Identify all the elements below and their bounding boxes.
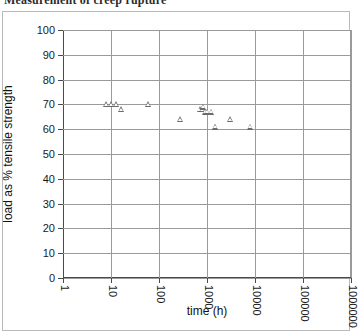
y-tick-label: 50 [43, 149, 55, 160]
data-point-marker [212, 124, 218, 130]
gridline-vertical [207, 30, 208, 278]
y-tick [58, 55, 63, 56]
y-tick [58, 129, 63, 130]
y-tick [58, 154, 63, 155]
x-tick-label: 100000 [298, 285, 309, 322]
y-axis-title: load as % tensile strength [1, 30, 15, 278]
x-tick [255, 278, 256, 283]
x-tick [159, 278, 160, 283]
chart-title: Measurement of creep rupture [4, 0, 167, 8]
data-point-marker [227, 116, 233, 122]
y-tick [58, 204, 63, 205]
y-tick-label: 20 [43, 223, 55, 234]
y-tick-label: 0 [49, 273, 55, 284]
y-tick [58, 179, 63, 180]
gridline-vertical [351, 30, 352, 278]
gridline-vertical [111, 30, 112, 278]
x-tick [207, 278, 208, 283]
data-point-marker [247, 124, 253, 130]
y-tick-label: 30 [43, 198, 55, 209]
x-tick [303, 278, 304, 283]
figure-frame: load as % tensile strength time (h) 0102… [2, 11, 350, 331]
y-tick [58, 80, 63, 81]
gridline-vertical [159, 30, 160, 278]
y-tick [58, 228, 63, 229]
y-tick-label: 10 [43, 248, 55, 259]
data-point-marker [118, 106, 124, 112]
gridline-vertical [303, 30, 304, 278]
y-tick-label: 90 [43, 49, 55, 60]
x-tick [111, 278, 112, 283]
gridline-vertical [255, 30, 256, 278]
data-point-marker [145, 101, 151, 107]
y-tick-label: 100 [37, 25, 55, 36]
data-point-marker [177, 116, 183, 122]
y-tick-label: 40 [43, 173, 55, 184]
y-tick-label: 80 [43, 74, 55, 85]
x-tick-label: 1 [58, 285, 69, 291]
x-tick-label: 10 [106, 285, 117, 297]
y-tick [58, 104, 63, 105]
x-tick-label: 1000 [202, 285, 213, 309]
plot-area: 0102030405060708090100 11010010001000010… [63, 30, 351, 278]
data-point-marker [208, 109, 214, 115]
x-tick-label: 100 [154, 285, 165, 303]
x-tick [351, 278, 352, 283]
y-tick-label: 70 [43, 99, 55, 110]
chart-title-strip: Measurement of creep rupture [0, 0, 353, 11]
x-tick [63, 278, 64, 283]
y-tick-label: 60 [43, 124, 55, 135]
x-tick-label: 10000 [250, 285, 261, 316]
y-tick [58, 253, 63, 254]
x-tick-label: 1000000 [346, 285, 357, 328]
y-tick [58, 30, 63, 31]
